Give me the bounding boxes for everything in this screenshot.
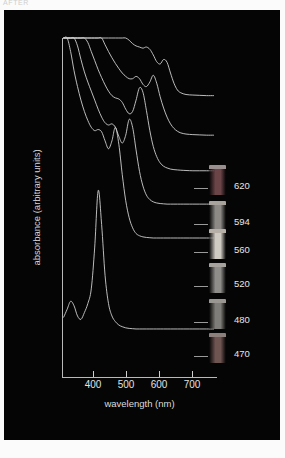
spectrum-curve-594 — [64, 37, 214, 135]
header-caption: AFTER — [3, 0, 29, 6]
vial-cap-560 — [209, 229, 226, 233]
vial-cap-520 — [209, 263, 226, 267]
vial-cap-480 — [209, 299, 226, 303]
spectrum-curve-480 — [64, 37, 214, 238]
vial-swatch-470 — [209, 336, 226, 363]
vial-cap-620 — [209, 165, 226, 169]
vial-label-480: 480 — [234, 314, 250, 325]
vial-swatch-620 — [209, 168, 226, 195]
x-axis-label: wavelength (nm) — [62, 398, 217, 409]
spectrum-curve-560 — [64, 38, 214, 171]
leader-line-480 — [194, 322, 208, 323]
leader-line-594 — [194, 224, 208, 225]
x-tick-500 — [126, 371, 127, 377]
vial-label-594: 594 — [234, 216, 250, 227]
y-axis-label: absorbance (arbitrary units) — [31, 113, 42, 303]
x-tick-label-400: 400 — [85, 379, 102, 390]
vial-cap-470 — [209, 333, 226, 337]
x-tick-label-700: 700 — [184, 379, 201, 390]
spectra-figure-panel: absorbance (arbitrary units) 400 500 600… — [4, 10, 280, 440]
leader-line-560 — [194, 252, 208, 253]
figure-root: AFTER absorbance (arbitrary units) 400 5… — [0, 0, 285, 458]
x-tick-400 — [93, 371, 94, 377]
vial-swatch-480 — [209, 302, 226, 329]
spectrum-curve-520 — [64, 37, 214, 204]
vial-label-620: 620 — [234, 180, 250, 191]
x-tick-label-600: 600 — [151, 379, 168, 390]
vial-label-560: 560 — [234, 244, 250, 255]
vial-label-470: 470 — [234, 348, 250, 359]
leader-line-620 — [194, 188, 208, 189]
vial-swatch-560 — [209, 232, 226, 259]
y-axis-line — [62, 38, 63, 378]
spectrum-curve-470 — [64, 190, 214, 329]
spectrum-curve-620 — [64, 38, 214, 96]
leader-line-520 — [194, 286, 208, 287]
x-axis-line — [62, 377, 217, 378]
vial-swatch-520 — [209, 266, 226, 293]
vial-label-520: 520 — [234, 278, 250, 289]
leader-line-470 — [194, 356, 208, 357]
x-tick-label-500: 500 — [118, 379, 135, 390]
x-tick-600 — [159, 371, 160, 377]
x-tick-700 — [192, 371, 193, 377]
vial-cap-594 — [209, 201, 226, 205]
vial-swatch-594 — [209, 204, 226, 231]
